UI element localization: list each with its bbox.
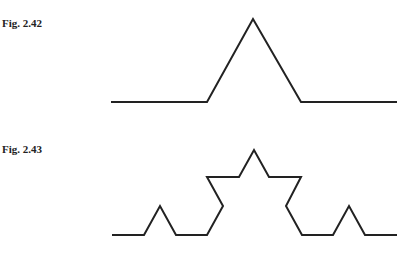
koch-curves-canvas — [0, 0, 416, 257]
koch-curve-iteration-1 — [111, 19, 397, 102]
koch-curve-iteration-2 — [112, 150, 397, 235]
